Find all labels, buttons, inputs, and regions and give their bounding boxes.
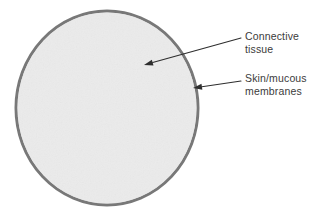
skin-mucous-membranes-arrow — [193, 81, 241, 90]
label-connective-tissue: Connective tissue — [245, 30, 299, 56]
ellipse-texture-overlay — [18, 13, 197, 204]
diagram-canvas: Connective tissue Skin/mucous membranes — [0, 0, 321, 214]
label-skin-mucous-membranes: Skin/mucous membranes — [245, 72, 307, 98]
skin-mucous-membranes-arrow-line — [202, 81, 241, 87]
ellipse-group — [16, 11, 198, 205]
